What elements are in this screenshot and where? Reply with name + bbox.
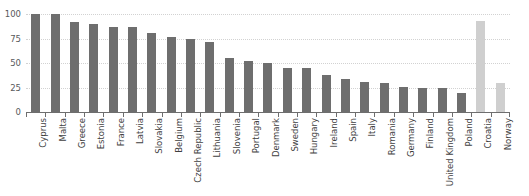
x-axis-tick <box>355 113 356 117</box>
bar-slot[interactable] <box>45 14 64 112</box>
y-axis-tick-label: 100 <box>5 10 21 19</box>
bar-slot[interactable] <box>84 14 103 112</box>
bar[interactable] <box>70 22 79 112</box>
bar[interactable] <box>399 87 408 112</box>
x-axis-category-label: Romania <box>388 118 397 155</box>
y-axis-tick-label: 25 <box>10 84 21 93</box>
bar-slot[interactable] <box>413 14 432 112</box>
bar-slot[interactable] <box>258 14 277 112</box>
y-axis-tick-label: 75 <box>10 35 21 44</box>
bar-slot[interactable] <box>123 14 142 112</box>
x-axis-category-label: Finland <box>426 118 435 148</box>
x-axis-tick <box>26 113 27 117</box>
bar-slot[interactable] <box>278 14 297 112</box>
bar[interactable] <box>167 37 176 112</box>
x-axis-tick <box>258 113 259 117</box>
bar-slot[interactable] <box>26 14 45 112</box>
bar[interactable] <box>476 21 485 112</box>
x-axis-tick <box>162 113 163 117</box>
x-axis-tick <box>433 113 434 117</box>
bar-slot[interactable] <box>162 14 181 112</box>
bar-slot[interactable] <box>65 14 84 112</box>
x-axis-category-label: Germany <box>407 118 416 157</box>
bar-slot[interactable] <box>200 14 219 112</box>
x-axis-category-label: Belgium <box>175 118 184 153</box>
bar[interactable] <box>302 68 311 112</box>
x-axis-tick <box>65 113 66 117</box>
x-axis-category-label: Spain <box>349 118 358 142</box>
bar[interactable] <box>147 33 156 112</box>
bar[interactable] <box>496 83 505 112</box>
bar[interactable] <box>128 27 137 112</box>
bar[interactable] <box>457 93 466 112</box>
x-axis-category-label: United Kingdom <box>446 118 455 186</box>
x-axis-category-label: Portugal <box>252 118 261 153</box>
bar[interactable] <box>380 83 389 112</box>
x-axis-tick <box>413 113 414 117</box>
x-axis-category-label: Slovakia <box>155 118 164 154</box>
bar-slot[interactable] <box>297 14 316 112</box>
x-axis-category-label: Denmark <box>272 118 281 157</box>
x-axis-tick <box>123 113 124 117</box>
x-axis-labels: CyprusMaltaGreeceEstoniaFranceLatviaSlov… <box>26 118 510 196</box>
bar-slot[interactable] <box>239 14 258 112</box>
bar-slot[interactable] <box>394 14 413 112</box>
bar[interactable] <box>31 14 40 112</box>
bar-slot[interactable] <box>181 14 200 112</box>
bar[interactable] <box>51 14 60 112</box>
bar[interactable] <box>360 82 369 112</box>
bar-slot[interactable] <box>355 14 374 112</box>
x-axis-line <box>26 112 510 117</box>
x-axis-category-label: Norway <box>504 118 513 150</box>
x-axis-category-label: Lithuania <box>213 118 222 157</box>
bar-series <box>26 14 510 112</box>
x-axis-tick <box>142 113 143 117</box>
x-axis-tick <box>394 113 395 117</box>
bar[interactable] <box>205 42 214 112</box>
bar-slot[interactable] <box>220 14 239 112</box>
x-axis-category-label: Czech Republic <box>194 118 203 183</box>
bar[interactable] <box>225 58 234 112</box>
bar[interactable] <box>186 39 195 112</box>
x-axis-tick <box>316 113 317 117</box>
bar[interactable] <box>341 79 350 112</box>
x-axis-category-label: Ireland <box>330 118 339 147</box>
x-axis-tick <box>471 113 472 117</box>
bar[interactable] <box>89 24 98 112</box>
x-axis-category-label: Slovenia <box>233 118 242 154</box>
bar-slot[interactable] <box>142 14 161 112</box>
x-axis-tick <box>239 113 240 117</box>
x-axis-tick <box>374 113 375 117</box>
bar[interactable] <box>244 61 253 112</box>
bar[interactable] <box>418 88 427 112</box>
x-axis-tick <box>84 113 85 117</box>
bar-slot[interactable] <box>103 14 122 112</box>
y-axis-tick-label: 0 <box>16 108 21 117</box>
bar[interactable] <box>109 27 118 112</box>
x-axis-category-label: Sweden <box>291 118 300 152</box>
bar-slot[interactable] <box>491 14 510 112</box>
bar-slot[interactable] <box>374 14 393 112</box>
x-axis-category-label: France <box>117 118 126 146</box>
bar-slot[interactable] <box>336 14 355 112</box>
y-axis-labels: 0255075100 <box>0 0 24 112</box>
x-axis-category-label: Italy <box>368 118 377 136</box>
bar-slot[interactable] <box>316 14 335 112</box>
bar-slot[interactable] <box>471 14 490 112</box>
x-axis-tick <box>336 113 337 117</box>
x-axis-tick <box>181 113 182 117</box>
x-axis-category-label: Hungary <box>310 118 319 154</box>
x-axis-tick <box>278 113 279 117</box>
bar[interactable] <box>283 68 292 112</box>
bar-slot[interactable] <box>452 14 471 112</box>
x-axis-category-label: Poland <box>465 118 474 146</box>
bar[interactable] <box>263 63 272 112</box>
bar[interactable] <box>322 75 331 112</box>
x-axis-tick <box>45 113 46 117</box>
bar-slot[interactable] <box>433 14 452 112</box>
x-axis-tick <box>297 113 298 117</box>
bar[interactable] <box>438 88 447 112</box>
x-axis-tick <box>491 113 492 117</box>
x-axis-tick <box>509 113 510 117</box>
x-axis-category-label: Croatia <box>484 118 493 149</box>
